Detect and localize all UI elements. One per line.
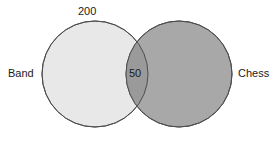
venn-diagram: 200 Band Chess 50 bbox=[0, 0, 279, 142]
chess-set-label: Chess bbox=[238, 68, 269, 79]
band-set-label: Band bbox=[8, 68, 34, 79]
intersection-count-label: 50 bbox=[129, 68, 141, 79]
band-total-label: 200 bbox=[78, 6, 96, 17]
